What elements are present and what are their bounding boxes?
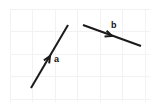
vector-diagram-figure: ab: [0, 0, 158, 110]
vector-b-label: b: [111, 20, 117, 30]
figure-background: [0, 0, 158, 110]
diagram-canvas: ab: [0, 0, 158, 110]
